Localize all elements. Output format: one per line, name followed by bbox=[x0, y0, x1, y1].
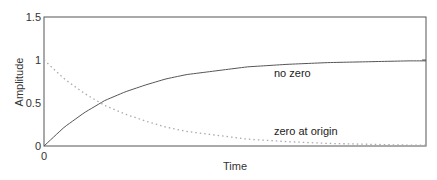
no-zero-annotation: no zero bbox=[274, 67, 311, 79]
zero-at-origin-annotation: zero at origin bbox=[274, 125, 338, 137]
step-response-chart: 1.5 1 0.5 0 0 Time Amplitude no zero zer… bbox=[0, 0, 437, 180]
y-axis-label: Amplitude bbox=[13, 58, 25, 107]
y-tick-label: 0.5 bbox=[26, 97, 41, 109]
y-tick-label: 1.5 bbox=[26, 11, 41, 23]
x-tick-label: 0 bbox=[41, 150, 47, 162]
y-tick-label: 1 bbox=[35, 54, 41, 66]
plot-area bbox=[44, 17, 426, 146]
x-axis-label: Time bbox=[223, 160, 247, 172]
